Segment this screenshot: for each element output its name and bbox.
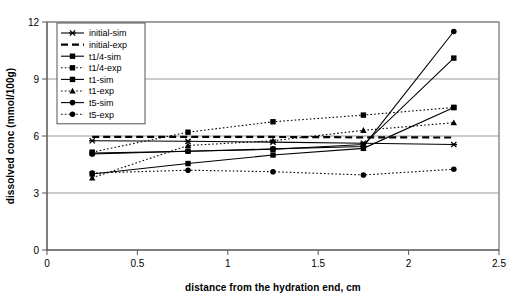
x-axis-title: distance from the hydration end, cm [185,282,361,293]
data-point-t1-sim [451,105,456,110]
data-point-t5-exp [185,167,191,173]
data-point-t5-sim [361,144,367,150]
data-point-t1-4-exp [361,112,366,117]
x-axis-tick-label: 1.5 [311,258,325,269]
line-chart: 03691200.511.522.5distance from the hydr… [0,0,514,306]
y-axis-tick-label: 3 [33,188,39,199]
legend-marker-t5-sim [70,100,76,106]
data-point-t5-sim [185,148,191,154]
data-point-t1-sim [185,161,190,166]
data-point-t1-4-exp [185,130,190,135]
x-axis-tick-label: 1 [225,258,231,269]
legend-label-t1-4-sim: t1/4-sim [89,52,121,62]
legend-label-t1-sim: t1-sim [89,75,114,85]
legend-label-t5-exp: t5-exp [89,110,114,120]
legend-label-t5-sim: t5-sim [89,98,114,108]
x-axis-tick-label: 0 [44,258,50,269]
x-axis-tick-label: 2 [406,258,412,269]
legend-marker-t5-exp [70,111,76,117]
legend-marker-t1-4-exp [70,65,75,70]
chart-container: 03691200.511.522.5distance from the hydr… [0,0,514,306]
data-point-t5-exp [451,166,457,172]
data-point-t5-exp [270,169,276,175]
data-point-t5-exp [361,172,367,178]
legend-label-initial-sim: initial-sim [89,28,127,38]
legend-label-t1-4-exp: t1/4-exp [89,63,122,73]
y-axis-tick-label: 12 [28,17,40,28]
y-axis-tick-label: 9 [33,74,39,85]
y-axis-tick-label: 6 [33,131,39,142]
x-axis-tick-label: 0.5 [130,258,144,269]
y-axis-tick-label: 0 [33,245,39,256]
data-point-t5-sim [270,146,276,152]
legend-marker-t1-4-sim [70,54,75,59]
y-axis-title: dissolved conc (mmol/100g) [5,68,16,205]
legend-marker-t1-sim [70,77,75,82]
legend-label-initial-exp: initial-exp [89,40,127,50]
data-point-t5-sim [451,29,457,35]
data-point-t5-sim [89,151,95,157]
data-point-t5-exp [89,170,95,176]
data-point-t1-sim [270,152,275,157]
legend-label-t1-exp: t1-exp [89,86,114,96]
data-point-t1-4-sim [451,55,456,60]
x-axis-tick-label: 2.5 [492,258,506,269]
data-point-t1-4-exp [270,119,275,124]
